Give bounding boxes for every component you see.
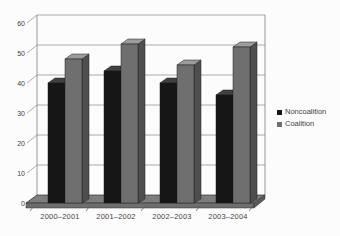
- bar-side-coalition-2001: [138, 39, 145, 203]
- bar-noncoalition-2000: [48, 83, 65, 203]
- legend-label-coalition: Coalition: [285, 120, 314, 128]
- chart-legend: Noncoalition Coalition: [277, 108, 326, 128]
- bar-side-coalition-2003: [250, 42, 257, 203]
- y-tick-label: 10: [17, 170, 25, 177]
- y-tick: [27, 165, 37, 173]
- y-tick-label: 40: [17, 80, 25, 87]
- legend-item-coalition: Coalition: [277, 120, 326, 128]
- bar-noncoalition-2003: [216, 95, 233, 203]
- legend-item-noncoalition: Noncoalition: [277, 108, 326, 116]
- legend-swatch-noncoalition: [277, 110, 282, 115]
- y-tick: [27, 135, 37, 143]
- bar-coalition-2001: [121, 44, 138, 203]
- y-tick-label: 60: [17, 20, 25, 27]
- category-label: 2002–2003: [152, 212, 191, 221]
- bar-coalition-2003: [233, 47, 250, 203]
- bar-noncoalition-2001: [104, 71, 121, 203]
- y-tick: [27, 15, 37, 23]
- bar-coalition-2002: [177, 65, 194, 203]
- y-tick-label: 30: [17, 110, 25, 117]
- bar-side-coalition-2000: [82, 54, 89, 203]
- floor-front: [26, 203, 254, 208]
- y-tick: [27, 75, 37, 83]
- bar-noncoalition-2002: [160, 83, 177, 203]
- y-tick-label: 20: [17, 140, 25, 147]
- category-label: 2000–2001: [40, 212, 79, 221]
- category-label: 2001–2002: [96, 212, 135, 221]
- y-tick-label: 0: [21, 200, 25, 207]
- y-tick: [27, 45, 37, 53]
- y-tick-label: 50: [17, 50, 25, 57]
- bar-side-coalition-2002: [194, 60, 201, 203]
- y-tick: [27, 105, 37, 113]
- category-label: 2003–2004: [208, 212, 247, 221]
- legend-label-noncoalition: Noncoalition: [285, 108, 326, 116]
- bar-coalition-2000: [65, 59, 82, 203]
- legend-swatch-coalition: [277, 122, 282, 127]
- chart-canvas: 01020304050602000–20012001–20022002–2003…: [0, 0, 340, 236]
